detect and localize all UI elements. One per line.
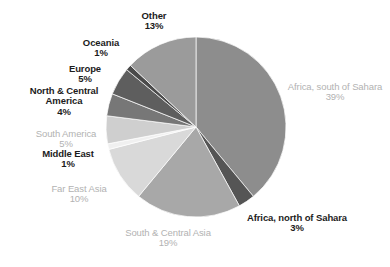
pie-slice-label: South America5% <box>20 129 112 150</box>
pie-slice-label-value: 1% <box>30 159 106 169</box>
pie-slice-label: Oceania1% <box>72 38 130 59</box>
pie-slice-label-value: 13% <box>126 21 182 31</box>
pie-chart: Africa, south of Sahara39%Africa, north … <box>0 0 390 267</box>
pie-slice-label: Europe5% <box>58 64 112 85</box>
pie-slice-label-value: 19% <box>112 238 224 248</box>
pie-slice-label-value: 4% <box>14 107 114 117</box>
pie-slice-label-value: 1% <box>72 48 130 58</box>
pie-slice-label-value: 39% <box>283 92 387 102</box>
pie-slice-label: Middle East1% <box>30 149 106 170</box>
pie-slice-label: Far East Asia10% <box>40 184 118 205</box>
pie-slice-group <box>106 37 286 217</box>
pie-slice-label-name: North & Central America <box>14 86 114 107</box>
pie-slice-label-value: 10% <box>40 194 118 204</box>
pie-slice-label: North & Central America4% <box>14 86 114 117</box>
pie-slice-label-value: 3% <box>240 223 354 233</box>
pie-slice-label: Africa, north of Sahara3% <box>240 213 354 234</box>
pie-slice-label-value: 5% <box>20 139 112 149</box>
pie-slice-label: Africa, south of Sahara39% <box>283 82 387 103</box>
pie-slice-label-value: 5% <box>58 74 112 84</box>
pie-slice-label: Other13% <box>126 11 182 32</box>
pie-slice-label: South & Central Asia19% <box>112 228 224 249</box>
